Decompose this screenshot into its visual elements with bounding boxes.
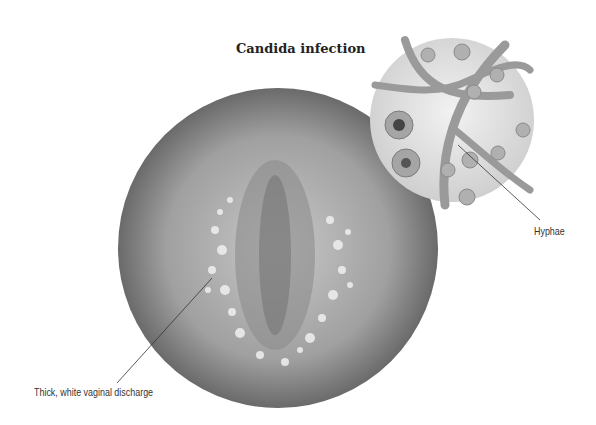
- illustration: [0, 0, 596, 425]
- discharge-label: Thick, white vaginal discharge: [34, 386, 153, 398]
- inner-region: [259, 175, 291, 335]
- hyphae-label: Hyphae: [534, 225, 565, 237]
